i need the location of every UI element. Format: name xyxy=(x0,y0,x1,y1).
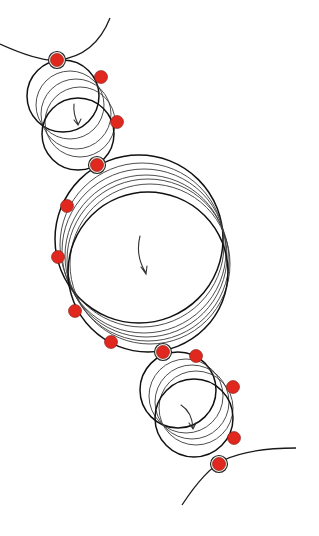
contact-point xyxy=(91,159,104,172)
contact-point xyxy=(228,432,241,445)
wheel-ghost xyxy=(36,71,104,139)
small-wheel-bottom xyxy=(140,352,233,457)
wheel-ghost xyxy=(65,175,227,337)
rolling-wheels-diagram xyxy=(0,0,319,536)
wheel-outline-start xyxy=(27,60,99,132)
contact-point xyxy=(105,336,118,349)
contact-point xyxy=(52,251,65,264)
wheel-ghost xyxy=(62,169,226,333)
rotation-arrow-icon xyxy=(74,104,81,125)
wheel-outline-start xyxy=(140,352,216,428)
contact-point xyxy=(51,54,64,67)
wheel-ghost xyxy=(67,179,229,341)
contact-point xyxy=(157,346,170,359)
rotation-arrow-icon xyxy=(138,236,147,274)
contact-point xyxy=(227,381,240,394)
wheel-ghost xyxy=(159,371,233,445)
large-wheel-middle xyxy=(55,155,230,352)
contact-point xyxy=(190,350,203,363)
contact-point xyxy=(95,71,108,84)
contact-point xyxy=(213,458,226,471)
wheel-ghost xyxy=(149,359,223,433)
contact-point xyxy=(69,305,82,318)
wheel-outline-end xyxy=(68,192,228,352)
contact-point xyxy=(111,116,124,129)
contact-point xyxy=(61,200,74,213)
